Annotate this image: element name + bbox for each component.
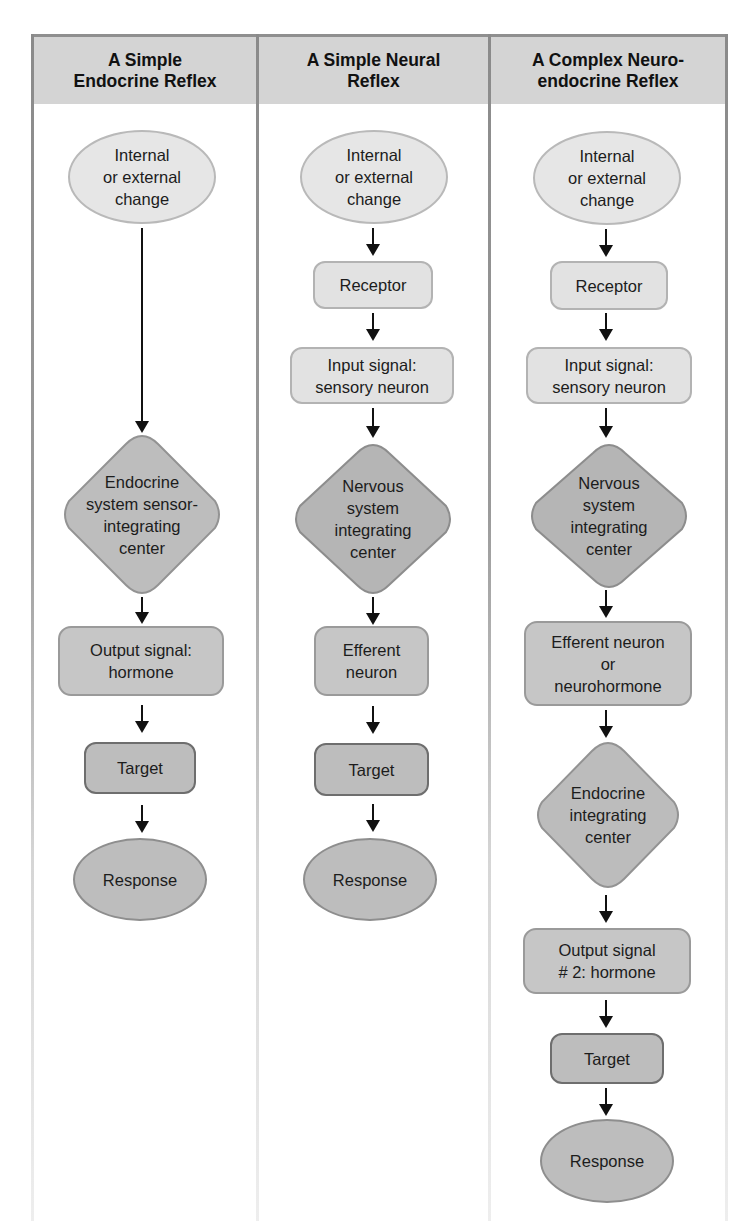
output-signal-node: Output signal: hormone [58,626,224,696]
output-signal-2-node: Output signal # 2: hormone [523,928,691,994]
target-node: Target [84,742,196,794]
receptor-node: Receptor [550,261,668,310]
endocrine-integrating-center-node: Endocrine integrating center [531,740,685,890]
response-node: Response [303,838,437,921]
stimulus-node: Internal or external change [300,130,448,224]
arrow-down-icon [599,1088,613,1116]
input-signal-node: Input signal: sensory neuron [290,347,454,404]
arrow-down-icon [599,895,613,923]
arrow-down-icon [366,706,380,734]
arrow-down-icon [599,710,613,738]
integrating-center-node: Nervous system integrating center [525,442,693,590]
response-node: Response [73,838,207,921]
table-right-border [725,34,728,1221]
arrow-down-icon [366,597,380,625]
arrow-down-icon [135,805,149,833]
table-left-border [31,34,34,1221]
target-node: Target [550,1033,664,1084]
column-divider-1 [256,34,259,1221]
column-header-neuroendocrine-reflex: A Complex Neuro- endocrine Reflex [491,37,725,104]
arrow-down-icon [599,408,613,438]
arrow-down-icon [366,408,380,438]
efferent-neuron-or-neurohormone-node: Efferent neuron or neurohormone [524,621,692,706]
integrating-center-node: Nervous system integrating center [289,442,457,596]
endocrine-integrating-center-label: Endocrine integrating center [531,740,685,890]
integrating-center-label: Endocrine system sensor- integrating cen… [58,433,226,596]
arrow-down-icon [366,313,380,341]
input-signal-node: Input signal: sensory neuron [526,347,692,404]
arrow-down-icon [135,228,149,433]
target-node: Target [314,743,429,796]
arrow-down-icon [366,228,380,256]
arrow-down-icon [599,313,613,341]
integrating-center-label: Nervous system integrating center [525,442,693,590]
integrating-center-node: Endocrine system sensor- integrating cen… [58,433,226,596]
arrow-down-icon [135,597,149,624]
arrow-down-icon [599,590,613,618]
arrow-down-icon [599,1000,613,1028]
arrow-down-icon [135,705,149,733]
receptor-node: Receptor [313,261,433,309]
column-header-neural-reflex: A Simple Neural Reflex [259,37,488,104]
response-node: Response [540,1119,674,1203]
efferent-neuron-node: Efferent neuron [314,626,429,696]
stimulus-node: Internal or external change [533,131,681,225]
arrow-down-icon [599,229,613,257]
column-divider-2 [488,34,491,1221]
stimulus-node: Internal or external change [68,130,216,224]
column-header-endocrine-reflex: A Simple Endocrine Reflex [34,37,256,104]
arrow-down-icon [366,804,380,832]
integrating-center-label: Nervous system integrating center [289,442,457,596]
